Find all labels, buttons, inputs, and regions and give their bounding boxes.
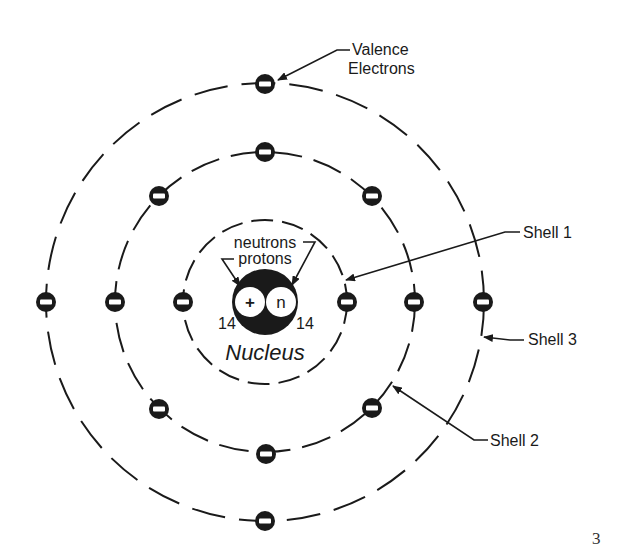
electron-shell1-right bbox=[337, 292, 357, 312]
protons-label: protons bbox=[238, 250, 291, 267]
electron-shell2-top bbox=[255, 142, 275, 162]
shell2-label: Shell 2 bbox=[490, 432, 539, 449]
electron-shell1-left bbox=[173, 292, 193, 312]
shell1-label: Shell 1 bbox=[523, 224, 572, 241]
proton-count: 14 bbox=[218, 315, 236, 332]
electron-shell3-left bbox=[36, 292, 56, 312]
electron-shell2-right bbox=[404, 292, 424, 312]
valence-label-line2: Electrons bbox=[348, 60, 415, 77]
nucleus-label: Nucleus bbox=[225, 340, 304, 365]
atom-diagram: + n 14 14 Nucleus neutrons protons Valen… bbox=[0, 0, 618, 559]
nucleus: + n bbox=[232, 269, 298, 335]
neutron-symbol: n bbox=[276, 293, 285, 312]
neutron-count: 14 bbox=[296, 315, 314, 332]
shell1-leader bbox=[346, 232, 520, 280]
electron-shell3-bottom bbox=[255, 511, 275, 531]
electron-shell2-bottom bbox=[256, 444, 276, 464]
valence-label-line1: Valence bbox=[352, 41, 409, 58]
electron-shell3-top bbox=[255, 74, 275, 94]
shell2-leader bbox=[393, 386, 488, 440]
electron-shell2-left bbox=[105, 292, 125, 312]
protons-leader bbox=[222, 259, 240, 286]
neutrons-label: neutrons bbox=[234, 234, 296, 251]
valence-leader bbox=[278, 50, 350, 80]
proton-symbol: + bbox=[245, 293, 255, 312]
shell3-label: Shell 3 bbox=[528, 331, 577, 348]
electron-shell2-bottom-left bbox=[149, 399, 169, 419]
electron-shell3-right bbox=[473, 292, 493, 312]
shell3-leader bbox=[484, 337, 524, 340]
page-number: 3 bbox=[592, 529, 601, 549]
electron-shell2-bottom-right bbox=[362, 398, 382, 418]
electron-shell2-top-right bbox=[362, 186, 382, 206]
electron-shell2-top-left bbox=[149, 186, 169, 206]
